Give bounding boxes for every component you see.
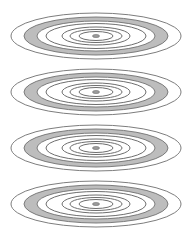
center-dot: [93, 202, 100, 205]
center-dot: [93, 146, 100, 149]
ring-set-2: [11, 69, 181, 115]
center-dot: [93, 90, 100, 93]
center-dot: [93, 34, 100, 37]
ring-set-3: [11, 125, 181, 171]
ring-set-1: [11, 13, 181, 59]
ring-set-4: [11, 181, 181, 227]
concentric-ellipses-diagram: [0, 0, 190, 236]
